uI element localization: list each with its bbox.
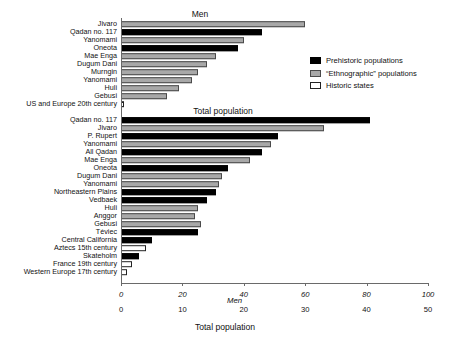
category-label: Yanomami <box>0 76 119 84</box>
bar-ethnographic <box>121 221 201 227</box>
bar-row <box>121 212 428 220</box>
bar-row <box>121 124 428 132</box>
x-tick-label-total-population: 30 <box>301 305 309 314</box>
x-tick-label-total-population: 0 <box>119 305 123 314</box>
bar-row <box>121 172 428 180</box>
category-label: Western Europe 17th century <box>0 268 119 276</box>
bar-row <box>121 140 428 148</box>
legend-label: Historic states <box>326 81 374 90</box>
bar-row <box>121 252 428 260</box>
bar-ethnographic <box>121 37 244 43</box>
bar-historic <box>121 261 132 267</box>
bar-ethnographic <box>121 125 324 131</box>
bar-prehistoric <box>121 29 262 35</box>
bar-row <box>121 164 428 172</box>
bar-prehistoric <box>121 149 262 155</box>
bar-prehistoric <box>121 229 198 235</box>
legend-item-historic: Historic states <box>310 81 417 90</box>
legend-item-prehistoric: Prehistoric populations <box>310 56 417 65</box>
bar-row <box>121 180 428 188</box>
legend-item-ethnographic: “Ethnographic” populations <box>310 69 417 78</box>
bar-row <box>121 28 428 36</box>
legend: Prehistoric populations“Ethnographic” po… <box>310 56 417 94</box>
bar-row <box>121 20 428 28</box>
x-axis-tick <box>121 283 122 286</box>
x-axis-line <box>121 283 428 284</box>
bar-row <box>121 36 428 44</box>
bar-ethnographic <box>121 141 271 147</box>
category-labels-men: JivaroQadan no. 117YanomamiOneotaMae Eng… <box>0 20 119 108</box>
bar-ethnographic <box>121 213 195 219</box>
bar-row <box>121 132 428 140</box>
x-tick-label-total-population: 40 <box>362 305 370 314</box>
bar-ethnographic <box>121 93 167 99</box>
bar-prehistoric <box>121 165 228 171</box>
x-tick-label-men: 60 <box>301 290 309 299</box>
x-axis-tick <box>182 283 183 286</box>
bar-row <box>121 100 428 108</box>
x-axis-tick <box>428 283 429 286</box>
legend-swatch-ethnographic <box>310 70 321 77</box>
bar-row <box>121 244 428 252</box>
category-label: US and Europe 20th century <box>0 100 119 108</box>
bar-prehistoric <box>121 189 216 195</box>
bar-ethnographic <box>121 173 222 179</box>
x-axis-label-men: Men <box>227 296 242 305</box>
bar-prehistoric <box>121 45 238 51</box>
bar-ethnographic <box>121 157 250 163</box>
bar-ethnographic <box>121 53 216 59</box>
x-tick-label-men: 80 <box>362 290 370 299</box>
bar-row <box>121 228 428 236</box>
x-tick-label-total-population: 50 <box>424 305 432 314</box>
bar-ethnographic <box>121 85 179 91</box>
legend-label: “Ethnographic” populations <box>326 69 417 78</box>
x-tick-label-men: 100 <box>422 290 435 299</box>
legend-swatch-prehistoric <box>310 57 321 64</box>
bar-row <box>121 220 428 228</box>
bar-ethnographic <box>121 69 198 75</box>
x-tick-label-total-population: 20 <box>240 305 248 314</box>
bar-ethnographic <box>121 181 219 187</box>
legend-label: Prehistoric populations <box>326 56 403 65</box>
bar-ethnographic <box>121 61 207 67</box>
bar-row <box>121 260 428 268</box>
x-axis-tick <box>244 283 245 286</box>
legend-swatch-historic <box>310 82 321 89</box>
x-axis-tick <box>305 283 306 286</box>
bar-row <box>121 44 428 52</box>
bar-row <box>121 156 428 164</box>
bar-historic <box>121 245 146 251</box>
bar-row <box>121 196 428 204</box>
bar-prehistoric <box>121 237 152 243</box>
bar-ethnographic <box>121 21 305 27</box>
bar-row <box>121 204 428 212</box>
x-axis-label-total-population: Total population <box>0 322 450 332</box>
x-tick-label-men: 20 <box>178 290 186 299</box>
panel-title-men: Men <box>160 9 240 19</box>
bar-row <box>121 116 428 124</box>
bar-row <box>121 148 428 156</box>
bar-prehistoric <box>121 117 370 123</box>
bar-row <box>121 268 428 276</box>
category-labels-total-population: Qadan no. 117JivaroP. RupertYanomamiAll … <box>0 116 119 276</box>
bar-prehistoric <box>121 197 207 203</box>
chart-figure: Men Total population JivaroQadan no. 117… <box>0 0 450 346</box>
bar-prehistoric <box>121 133 278 139</box>
bar-row <box>121 236 428 244</box>
category-label: Vedbaek <box>0 196 119 204</box>
bar-ethnographic <box>121 205 198 211</box>
x-axis-tick <box>367 283 368 286</box>
x-tick-label-total-population: 10 <box>178 305 186 314</box>
x-tick-label-men: 0 <box>119 290 123 299</box>
y-axis-line <box>121 18 122 283</box>
bar-row <box>121 188 428 196</box>
bars-total-population <box>121 116 428 276</box>
bar-ethnographic <box>121 77 192 83</box>
bar-prehistoric <box>121 253 139 259</box>
